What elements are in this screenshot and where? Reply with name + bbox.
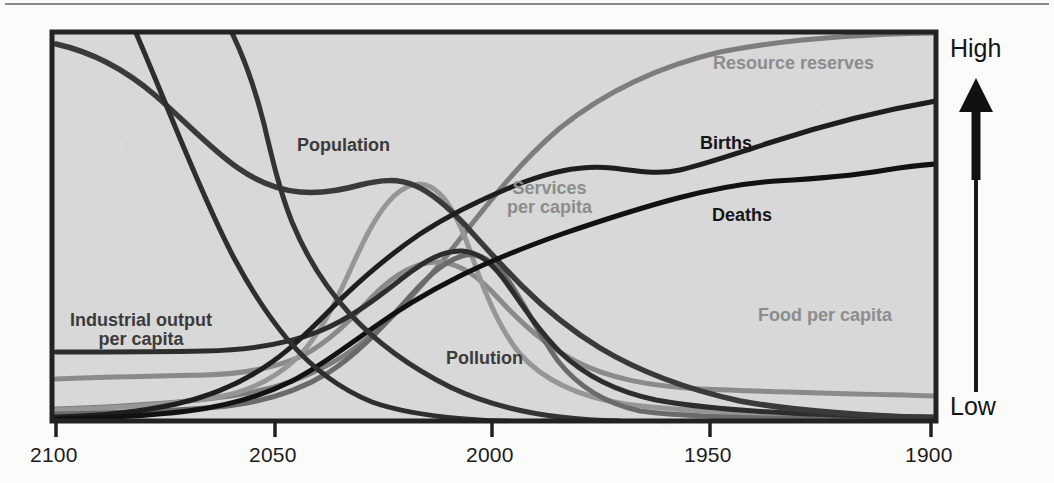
- limits-to-growth-chart: 2100 2050 2000 1950 1900 High Low Popula…: [0, 0, 1054, 483]
- x-tick-label-2000: 2000: [466, 443, 514, 467]
- chart-canvas: [0, 0, 1054, 483]
- label-services-per-capita: Services per capita: [507, 179, 592, 217]
- label-resource-reserves: Resource reserves: [713, 54, 874, 73]
- x-tick-label-1900: 1900: [905, 443, 953, 467]
- label-deaths: Deaths: [712, 206, 772, 225]
- y-low-label: Low: [950, 392, 996, 421]
- y-high-label: High: [950, 34, 1001, 63]
- x-tick-label-2100: 2100: [30, 443, 78, 467]
- x-tick-label-2050: 2050: [249, 443, 297, 467]
- label-population: Population: [297, 136, 390, 155]
- y-direction-indicator: [959, 78, 993, 392]
- label-food-per-capita: Food per capita: [758, 306, 892, 325]
- x-tick-label-1950: 1950: [684, 443, 732, 467]
- label-industrial-output-per-capita: Industrial output per capita: [70, 311, 212, 349]
- up-arrow-icon: [959, 78, 993, 180]
- label-pollution: Pollution: [446, 349, 523, 368]
- label-births: Births: [700, 134, 752, 153]
